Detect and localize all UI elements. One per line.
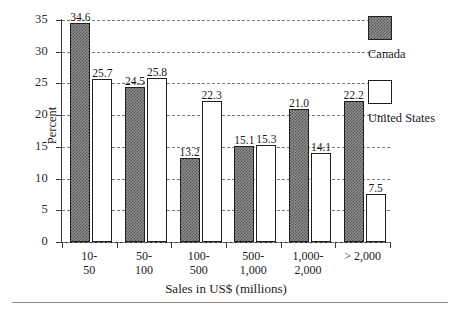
x-category-label-line: 1,000- [281, 250, 336, 264]
x-category-label-line: 1,000 [226, 264, 281, 278]
x-tick-mark [117, 242, 118, 248]
x-category-label-line: 100 [117, 264, 172, 278]
x-category-label-line: 50 [62, 264, 117, 278]
x-category-label-line: 500- [226, 250, 281, 264]
y-tick-label: 10 [14, 171, 48, 186]
x-category-label-3: 500-1,000 [226, 250, 281, 277]
x-tick-mark [335, 242, 336, 248]
bar-value-label: 25.7 [92, 67, 112, 79]
bar-united-states-0: 25.7 [92, 79, 112, 242]
x-category-label-line: > 2,000 [335, 250, 390, 264]
x-tick-mark [62, 242, 63, 248]
x-tick-mark [171, 242, 172, 248]
gridline [62, 52, 390, 53]
bar-canada-5: 22.2 [344, 101, 364, 242]
bar-value-label: 22.2 [344, 89, 364, 101]
bar-value-label: 21.0 [289, 97, 309, 109]
legend-entry-united-states: United States [368, 80, 460, 126]
bar-value-label: 14.1 [311, 141, 331, 153]
legend-swatch-canada-icon [368, 16, 392, 40]
y-tick-label: 5 [14, 202, 48, 217]
plot-area: 34.625.724.525.813.222.315.115.321.014.1… [62, 20, 390, 242]
y-tick-label: 25 [14, 75, 48, 90]
bar-canada-1: 24.5 [125, 87, 145, 242]
legend-entry-canada: Canada [368, 16, 460, 62]
bar-canada-0: 34.6 [70, 23, 90, 242]
y-tick-mark [56, 210, 62, 211]
bar-united-states-1: 25.8 [147, 78, 167, 242]
y-tick-label: 0 [14, 234, 48, 249]
chart-legend: Canada United States [368, 16, 460, 144]
x-category-label-line: 2,000 [281, 264, 336, 278]
legend-label-united-states: United States [368, 111, 460, 126]
bar-united-states-2: 22.3 [202, 101, 222, 242]
x-category-label-4: 1,000-2,000 [281, 250, 336, 277]
x-tick-mark [281, 242, 282, 248]
bar-value-label: 7.5 [368, 182, 382, 194]
bar-value-label: 22.3 [202, 89, 222, 101]
x-category-label-line: 10- [62, 250, 117, 264]
x-category-label-0: 10-50 [62, 250, 117, 277]
x-axis-title: Sales in US$ (millions) [62, 281, 390, 297]
bar-united-states-3: 15.3 [256, 145, 276, 242]
bar-value-label: 25.8 [147, 66, 167, 78]
bar-canada-3: 15.1 [234, 146, 254, 242]
y-tick-label: 30 [14, 44, 48, 59]
y-tick-label: 20 [14, 107, 48, 122]
y-tick-label: 35 [14, 12, 48, 27]
x-category-label-1: 50-100 [117, 250, 172, 277]
x-category-label-line: 50- [117, 250, 172, 264]
x-tick-mark [226, 242, 227, 248]
y-axis-title: Percent [45, 66, 60, 186]
bar-chart-figure: 34.625.724.525.813.222.315.115.321.014.1… [0, 0, 460, 320]
bar-value-label: 24.5 [125, 75, 145, 87]
legend-label-canada: Canada [368, 47, 460, 62]
bar-united-states-5: 7.5 [366, 194, 386, 242]
bottom-divider [12, 302, 448, 303]
bar-value-label: 34.6 [70, 11, 90, 23]
x-category-label-5: > 2,000 [335, 250, 390, 264]
x-category-label-2: 100-500 [171, 250, 226, 277]
x-category-label-line: 100- [171, 250, 226, 264]
bar-value-label: 15.1 [234, 134, 254, 146]
bar-united-states-4: 14.1 [311, 153, 331, 242]
y-tick-label: 15 [14, 139, 48, 154]
y-tick-mark [56, 20, 62, 21]
x-tick-mark [390, 242, 391, 248]
bar-value-label: 13.2 [180, 146, 200, 158]
y-tick-mark [56, 52, 62, 53]
x-category-label-line: 500 [171, 264, 226, 278]
bar-value-label: 15.3 [256, 133, 276, 145]
legend-swatch-united-states-icon [368, 80, 392, 104]
bar-canada-4: 21.0 [289, 109, 309, 242]
bar-canada-2: 13.2 [180, 158, 200, 242]
gridline [62, 20, 390, 21]
